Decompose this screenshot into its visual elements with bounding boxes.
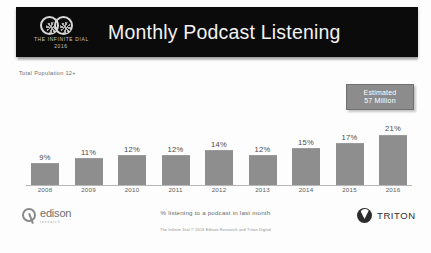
- bar-column: 11%: [70, 124, 108, 186]
- edison-subtitle: research: [40, 220, 71, 224]
- x-axis-tick-label: 2016: [374, 186, 412, 196]
- x-axis-tick-label: 2011: [157, 186, 195, 196]
- x-axis-tick-label: 2014: [287, 186, 325, 196]
- header-shadow: [18, 57, 418, 61]
- bar-value-label: 11%: [81, 148, 96, 157]
- edison-research-logo: edison research: [22, 207, 71, 224]
- bar-column: 12%: [113, 124, 151, 186]
- bar-rect: [292, 148, 320, 186]
- callout-line-1: Estimated: [364, 89, 397, 97]
- bar-chart: 9%11%12%12%14%12%15%17%21% 2008200920102…: [26, 118, 412, 196]
- edison-name: edison: [40, 208, 71, 219]
- bar-column: 14%: [200, 124, 238, 186]
- bar-value-label: 17%: [342, 133, 358, 142]
- infinite-dial-logo: THE INFINITE DIAL 2016: [30, 16, 92, 48]
- ring-right-spokes-icon: [60, 22, 71, 33]
- callout-line-2: 57 Million: [364, 97, 396, 105]
- bar-rect: [75, 158, 103, 186]
- edison-mark-icon: [22, 207, 39, 224]
- slide-canvas: THE INFINITE DIAL 2016 Monthly Podcast L…: [0, 0, 431, 253]
- bar-column: 12%: [244, 124, 282, 186]
- logo-line-2: 2016: [54, 44, 68, 49]
- x-axis-labels: 200820092010201120122013201420152016: [26, 186, 412, 196]
- slide-header: THE INFINITE DIAL 2016 Monthly Podcast L…: [16, 7, 418, 57]
- edison-wordmark: edison research: [40, 208, 71, 224]
- x-axis-tick-label: 2013: [244, 186, 282, 196]
- bar-rect: [31, 163, 59, 186]
- bar-column: 21%: [374, 124, 412, 186]
- x-axis-tick-label: 2010: [113, 186, 151, 196]
- bar-value-label: 12%: [124, 145, 140, 154]
- bar-rect: [336, 143, 364, 186]
- bar-column: 17%: [331, 124, 369, 186]
- triton-mark-icon: [357, 208, 372, 223]
- estimate-callout: Estimated 57 Million: [346, 84, 414, 110]
- bar-column: 15%: [287, 124, 325, 186]
- bar-value-label: 12%: [168, 145, 184, 154]
- bar-rect: [205, 150, 233, 186]
- bar-value-label: 9%: [39, 153, 50, 162]
- infinity-rings-icon: [40, 16, 82, 35]
- bar-rect: [162, 155, 190, 186]
- bar-value-label: 21%: [385, 124, 401, 133]
- triton-digital-logo: TRITON: [357, 208, 416, 223]
- bar-value-label: 14%: [211, 140, 227, 149]
- source-note: The Infinite Dial © 2016 Edison Research…: [0, 228, 431, 232]
- triton-name: TRITON: [377, 210, 416, 221]
- chart-plot-area: 9%11%12%12%14%12%15%17%21%: [26, 124, 412, 186]
- bar-value-label: 12%: [255, 145, 271, 154]
- x-axis-tick-label: 2012: [200, 186, 238, 196]
- page-title: Monthly Podcast Listening: [108, 21, 341, 44]
- x-axis-tick-label: 2008: [26, 186, 64, 196]
- bar-value-label: 15%: [298, 138, 314, 147]
- logo-line-1: THE INFINITE DIAL: [34, 37, 89, 42]
- bar-rect: [379, 135, 407, 187]
- bar-rect: [118, 155, 146, 186]
- bar-column: 9%: [26, 124, 64, 186]
- bar-column: 12%: [157, 124, 195, 186]
- x-axis-tick-label: 2015: [331, 186, 369, 196]
- x-axis-tick-label: 2009: [70, 186, 108, 196]
- base-label: Total Population 12+: [19, 70, 76, 76]
- bar-rect: [249, 155, 277, 186]
- ring-right-icon: [54, 16, 73, 35]
